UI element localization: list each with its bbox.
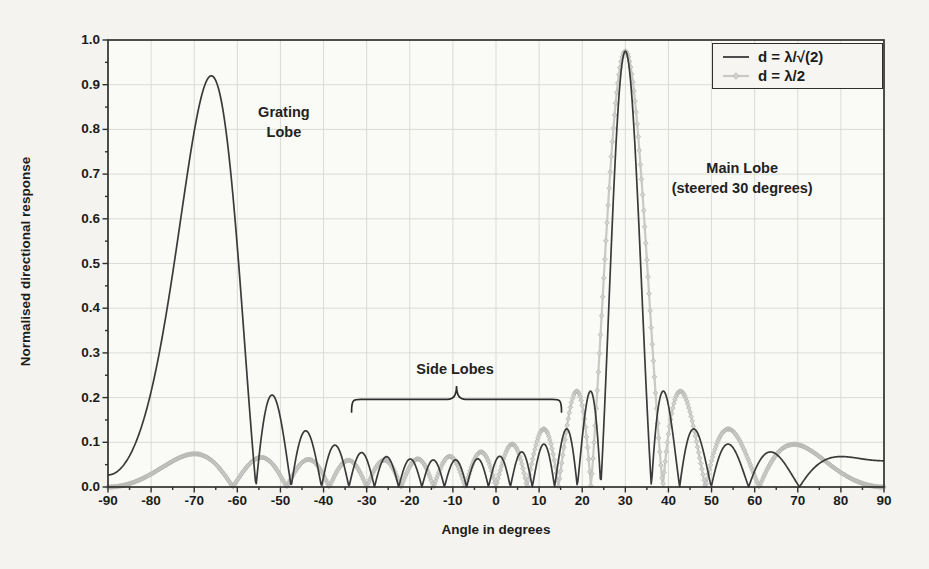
x-tick-label: -20 [388,493,432,508]
legend-label: d = λ/2 [758,67,805,84]
x-tick-label: 0 [474,493,518,508]
y-tick-label: 0.4 [60,300,100,315]
annotation-side-lobes: Side Lobes [416,359,493,379]
x-tick-label: 50 [690,493,734,508]
y-tick-label: 0.9 [60,77,100,92]
annotation-text-line: Main Lobe [672,158,813,178]
y-tick-label: 0.7 [60,166,100,181]
x-tick-label: -90 [86,493,130,508]
annotation-text-line: (steered 30 degrees) [672,178,813,198]
legend-solid-line-icon [722,51,752,63]
x-tick-label: 70 [776,493,820,508]
y-tick-label: 0.8 [60,121,100,136]
x-tick-label: -60 [215,493,259,508]
y-tick-label: 0.0 [60,479,100,494]
x-tick-label: 90 [862,493,906,508]
y-axis-title: Normalised directional response [18,112,33,412]
annotation-text-line: Lobe [258,122,310,142]
legend-entry: d = λ/√(2) [722,48,876,66]
x-tick-label: -50 [258,493,302,508]
y-tick-label: 0.5 [60,256,100,271]
x-tick-label: 10 [517,493,561,508]
annotation-grating-lobe: Grating Lobe [258,102,310,142]
annotation-main-lobe: Main Lobe (steered 30 degrees) [672,158,813,198]
legend-entry: d = λ/2 [722,67,876,85]
y-tick-label: 0.1 [60,434,100,449]
annotation-text-line: Side Lobes [416,359,493,379]
x-tick-label: 40 [646,493,690,508]
x-tick-label: 20 [560,493,604,508]
figure-beam-pattern-chart: -90-80-70-60-50-40-30-20-100102030405060… [0,0,929,569]
y-tick-label: 0.6 [60,211,100,226]
legend-marker-line-icon [722,70,752,82]
x-axis-title: Angle in degrees [108,522,884,537]
y-tick-label: 1.0 [60,32,100,47]
x-tick-label: 30 [603,493,647,508]
x-tick-label: -40 [302,493,346,508]
x-tick-label: -70 [172,493,216,508]
x-tick-label: 60 [733,493,777,508]
x-tick-label: 80 [819,493,863,508]
y-tick-label: 0.3 [60,345,100,360]
x-tick-label: -80 [129,493,173,508]
legend: d = λ/√(2) d = λ/2 [712,43,883,89]
x-tick-label: -10 [431,493,475,508]
x-tick-label: -30 [345,493,389,508]
legend-label: d = λ/√(2) [758,48,823,65]
annotation-text-line: Grating [258,102,310,122]
y-tick-label: 0.2 [60,390,100,405]
